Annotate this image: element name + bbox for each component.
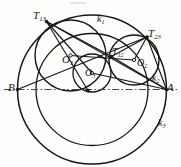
point-O2 [132, 58, 135, 61]
point-B [16, 88, 19, 91]
label-k1: k1 [97, 14, 104, 24]
label-T12: T12 [112, 47, 124, 57]
label-T23: T23 [148, 28, 161, 39]
point-P_bottom [87, 89, 90, 92]
scan-artifact [70, 2, 86, 4]
diagram-canvas [0, 0, 181, 167]
label-T13: T13 [33, 10, 46, 21]
geometry-figure: T13 k1 T23 T12 O1 O2 O3 k2 B A k3 [0, 0, 181, 167]
label-O2: O2 [137, 58, 147, 68]
label-k2: k2 [152, 73, 159, 83]
label-k3: k3 [158, 118, 165, 128]
label-A: A [167, 82, 174, 93]
label-O1: O1 [62, 54, 73, 65]
segment-group [18, 22, 167, 91]
label-O3: O3 [85, 68, 95, 78]
label-B: B [8, 82, 15, 93]
